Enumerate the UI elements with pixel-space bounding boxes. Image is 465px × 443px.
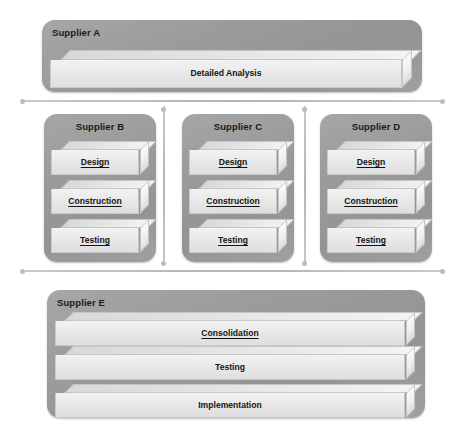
block-front-face: Implementation [55,393,405,418]
supplier-c-block-construction[interactable]: Construction [189,180,287,214]
supplier-d-block-label: Testing [356,236,386,245]
block-front-face: Construction [327,189,415,214]
block-front-face: Testing [51,228,139,253]
supplier-d-block-label: Design [357,158,386,167]
supplier-c-block-label: Design [219,158,248,167]
block-top-face [64,312,423,321]
supplier-e-title: Supplier E [57,297,105,308]
supplier-d-block-construction[interactable]: Construction [327,180,425,214]
block-top-face [60,50,422,60]
connector-vertical-right-dot-bottom [302,261,307,266]
connector-vertical-left [163,106,165,264]
connector-vertical-left-dot-bottom [161,261,166,266]
block-front-face: Construction [51,189,139,214]
block-front-face: Construction [189,189,277,214]
supplier-d-block-testing[interactable]: Testing [327,219,425,253]
supplier-a-panel[interactable]: Supplier A Detailed Analysis [42,20,422,92]
block-front-face: Consolidation [55,321,405,346]
supplier-b-block-testing[interactable]: Testing [51,219,149,253]
block-front-face: Detailed Analysis [50,60,402,88]
block-front-face: Design [327,150,415,175]
supplier-c-block-label: Testing [218,236,248,245]
block-front-face: Design [51,150,139,175]
supplier-b-block-label: Construction [68,197,121,206]
supplier-a-block-detailed-analysis[interactable]: Detailed Analysis [50,50,412,88]
supplier-c-block-design[interactable]: Design [189,141,287,175]
block-top-face [64,384,423,393]
supplier-d-block-label: Construction [344,197,397,206]
supplier-d-panel[interactable]: Supplier D Design Construction Testing [320,114,432,262]
supplier-e-block-label: Consolidation [201,329,258,338]
supplier-b-panel[interactable]: Supplier B Design Construction Testing [44,114,156,262]
connector-vertical-right [304,106,306,264]
supplier-c-title: Supplier C [182,121,294,132]
supplier-e-block-label: Testing [215,363,245,372]
supplier-e-block-testing[interactable]: Testing [55,346,415,380]
supplier-d-title: Supplier D [320,121,432,132]
supplier-e-block-consolidation[interactable]: Consolidation [55,312,415,346]
connector-vertical-right-dot-top [302,107,307,112]
supplier-b-block-design[interactable]: Design [51,141,149,175]
supplier-b-block-label: Testing [80,236,110,245]
block-front-face: Testing [55,355,405,380]
supplier-a-title: Supplier A [52,27,100,38]
supplier-c-panel[interactable]: Supplier C Design Construction Testing [182,114,294,262]
connector-vertical-left-dot-top [161,107,166,112]
supplier-e-panel[interactable]: Supplier E Consolidation Testing Impleme… [47,290,425,418]
block-front-face: Testing [327,228,415,253]
supplier-a-block-label: Detailed Analysis [191,69,262,78]
connector-upper-dot-right [440,99,445,104]
supplier-e-block-label: Implementation [198,401,262,410]
connector-lower-dot-right [440,269,445,274]
supplier-c-block-testing[interactable]: Testing [189,219,287,253]
supplier-b-title: Supplier B [44,121,156,132]
supplier-c-block-label: Construction [206,197,259,206]
connector-upper-line [24,100,442,102]
supplier-d-block-design[interactable]: Design [327,141,425,175]
block-front-face: Testing [189,228,277,253]
connector-lower-line [24,270,442,272]
supplier-e-block-implementation[interactable]: Implementation [55,384,415,418]
block-top-face [64,346,423,355]
block-front-face: Design [189,150,277,175]
supplier-b-block-label: Design [81,158,110,167]
supplier-b-block-construction[interactable]: Construction [51,180,149,214]
